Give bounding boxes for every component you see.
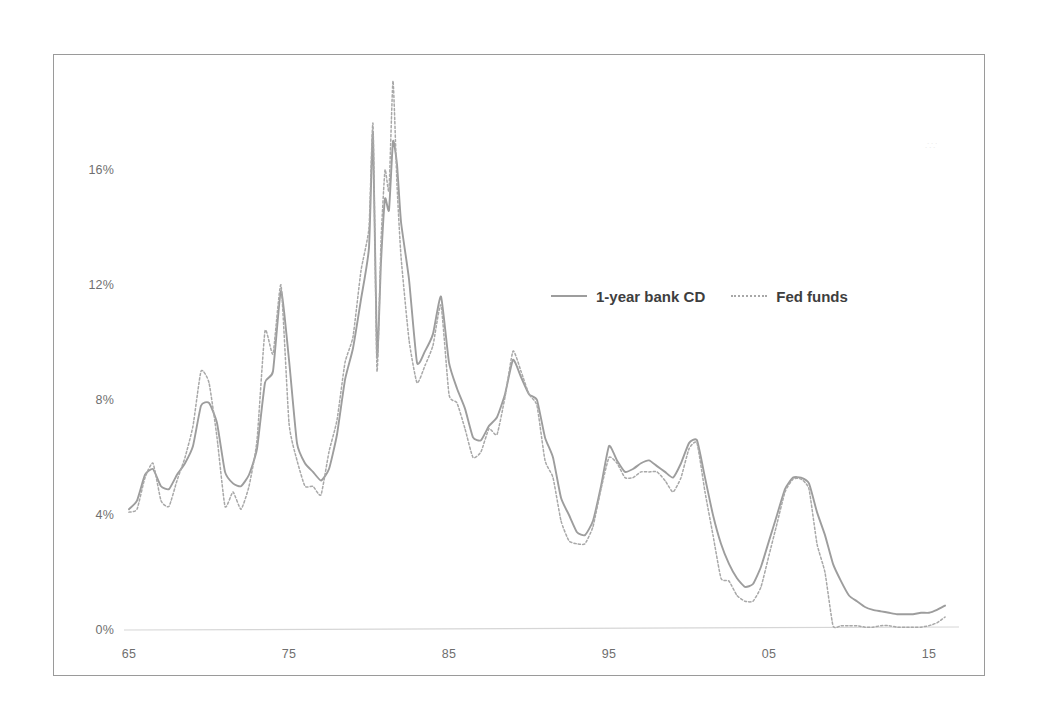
legend-entry-fedfunds: Fed funds [731, 288, 848, 305]
legend-label-fedfunds: Fed funds [776, 288, 848, 305]
series-line-1-year-bank-cd [129, 132, 945, 614]
series-layer [129, 81, 945, 628]
dotted-line-swatch-icon [731, 295, 767, 297]
chart-figure-frame: 16% 12% 8% 4% 0% 65 75 85 95 05 15 1-yea… [53, 54, 985, 676]
x-axis-tick-65: 65 [109, 647, 149, 661]
y-axis-tick-0: 0% [70, 623, 114, 637]
solid-line-swatch-icon [551, 295, 587, 297]
series-line-fed-funds [129, 81, 945, 628]
x-axis-tick-05: 05 [749, 647, 789, 661]
y-axis-tick-4: 4% [70, 508, 114, 522]
y-axis-tick-8: 8% [70, 393, 114, 407]
x-axis-tick-75: 75 [269, 647, 309, 661]
y-axis-tick-12: 12% [70, 278, 114, 292]
x-axis-tick-95: 95 [589, 647, 629, 661]
y-axis-tick-16: 16% [70, 163, 114, 177]
line-chart-svg [54, 55, 986, 677]
x-axis-tick-85: 85 [429, 647, 469, 661]
legend-label-cd: 1-year bank CD [596, 288, 705, 305]
legend-entry-cd: 1-year bank CD [551, 288, 705, 305]
chart-legend: 1-year bank CD Fed funds [551, 283, 848, 309]
plot-area: 16% 12% 8% 4% 0% 65 75 85 95 05 15 1-yea… [54, 55, 986, 677]
x-axis-tick-15: 15 [909, 647, 949, 661]
page-canvas: 16% 12% 8% 4% 0% 65 75 85 95 05 15 1-yea… [0, 0, 1041, 716]
